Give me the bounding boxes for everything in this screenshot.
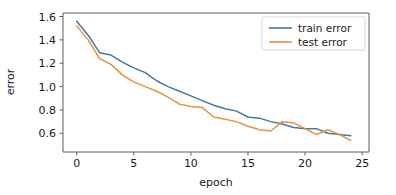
y-tick-label: 1.4 — [39, 34, 57, 47]
legend-label: train error — [298, 22, 352, 34]
chart-figure: 0510152025 0.60.81.01.21.41.6 epoch erro… — [0, 0, 396, 195]
y-tick-label: 1.2 — [39, 57, 57, 70]
x-tick-label: 0 — [73, 157, 80, 170]
x-axis-title: epoch — [199, 176, 233, 189]
y-tick-label: 0.6 — [39, 127, 57, 140]
y-axis-title: error — [4, 68, 17, 95]
line-chart: 0510152025 0.60.81.01.21.41.6 epoch erro… — [0, 0, 396, 195]
y-tick-label: 0.8 — [39, 104, 57, 117]
x-tick-label: 20 — [298, 157, 312, 170]
legend-label: test error — [298, 36, 348, 48]
x-tick-label: 25 — [355, 157, 369, 170]
y-tick-label: 1.6 — [39, 11, 57, 24]
x-tick-label: 15 — [241, 157, 255, 170]
x-tick-label: 10 — [184, 157, 198, 170]
y-tick-label: 1.0 — [39, 81, 57, 94]
chart-legend[interactable]: train errortest error — [262, 17, 365, 50]
x-tick-label: 5 — [130, 157, 137, 170]
